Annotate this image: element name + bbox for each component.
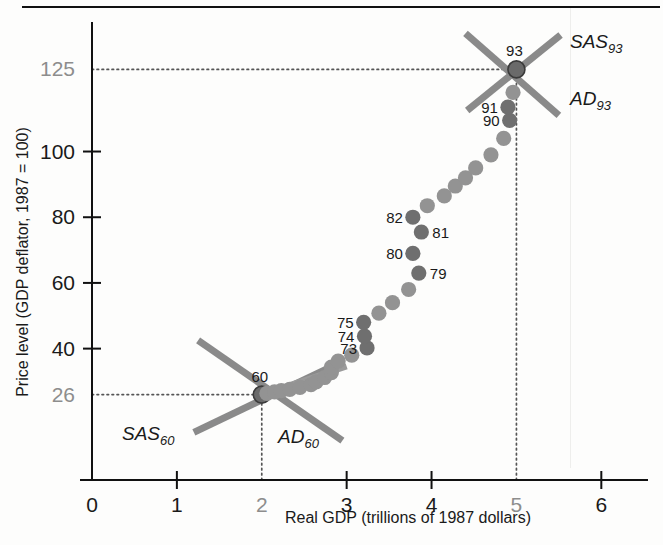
curve-label-ad-1960: AD60 [277,426,320,451]
y-tick-label-125: 125 [40,57,75,80]
data-point-82 [405,210,420,225]
equilibrium-point-93 [508,61,525,78]
as-ad-curves-group [194,33,561,440]
data-point-88 [483,147,498,162]
axes-group [80,22,648,480]
y-tick-label-100: 100 [40,140,75,163]
x-axis-title: Real GDP (trillions of 1987 dollars) [285,509,531,526]
curve-label-ad-1993: AD93 [569,88,612,113]
data-point-81 [414,224,429,239]
point-label-93: 93 [506,42,523,59]
point-label-81: 81 [432,224,449,241]
data-point-76 [371,306,386,321]
y-tick-label-26: 26 [52,383,75,406]
point-label-82: 82 [386,209,403,226]
point-label-75: 75 [337,314,354,331]
y-tick-label-40: 40 [52,337,75,360]
data-point-77 [385,295,400,310]
point-labels-group: 6073747579808182909193 [251,42,522,384]
figure-container: 264060801001250123456 607374757980818290… [0,0,663,545]
data-point-92 [505,85,520,100]
data-point-91 [500,100,515,115]
chart-canvas: 264060801001250123456 607374757980818290… [0,0,663,545]
y-tick-label-80: 80 [52,205,75,228]
tick-labels-group: 264060801001250123456 [40,57,607,516]
y-tick-label-60: 60 [52,271,75,294]
curve-label-sas-1993: SAS93 [570,31,623,56]
data-point-80 [405,246,420,261]
data-point-87 [468,160,483,175]
data-point-78 [401,282,416,297]
data-point-79 [411,265,426,280]
x-tick-label-2: 2 [256,493,268,516]
reference-lines-group [92,69,516,480]
point-label-60: 60 [251,368,268,385]
x-tick-label-6: 6 [595,493,607,516]
point-label-80: 80 [386,245,403,262]
data-point-75 [356,315,371,330]
point-label-79: 79 [430,265,447,282]
data-point-89 [496,131,511,146]
data-point-83 [420,198,435,213]
data-point-90 [502,113,517,128]
x-tick-label-0: 0 [86,493,98,516]
y-axis-title: Price level (GDP deflator, 1987 = 100) [14,127,31,397]
data-point-74 [357,329,372,344]
curve-label-sas-1960: SAS60 [122,423,175,448]
curve-labels-group: SAS60AD60SAS93AD93 [122,31,623,451]
x-tick-label-1: 1 [171,493,183,516]
point-label-91: 91 [481,99,498,116]
